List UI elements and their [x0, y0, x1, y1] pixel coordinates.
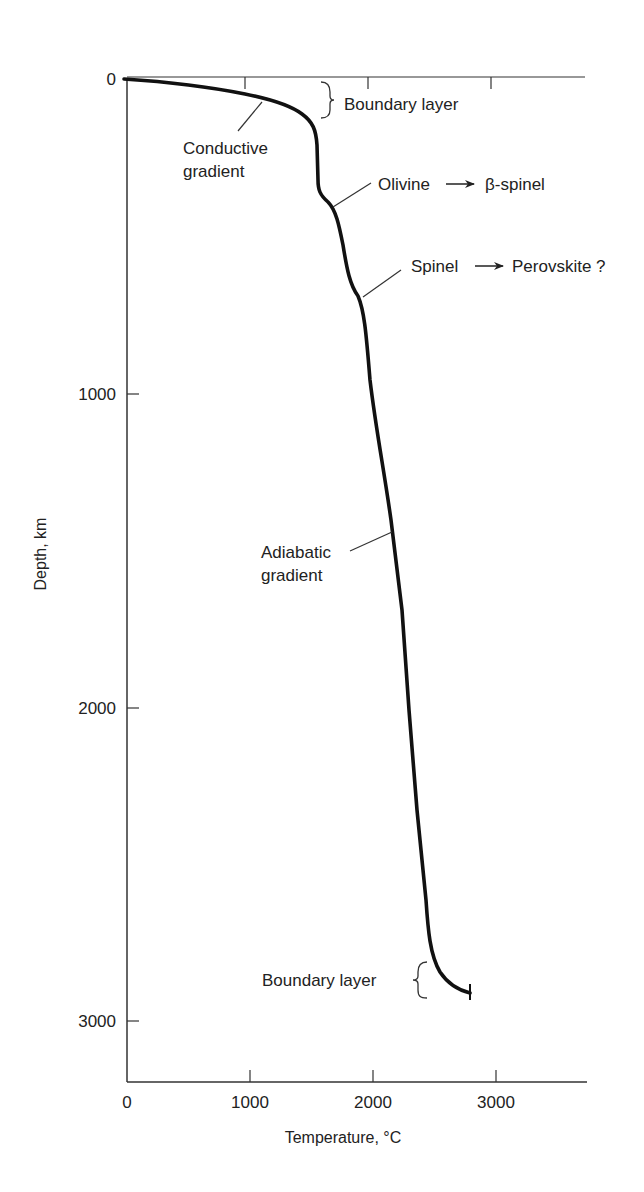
adiabatic-leader: [350, 532, 392, 551]
x-tick-label-3000: 3000: [477, 1093, 515, 1112]
geotherm-curve: [124, 79, 470, 993]
x-tick-label-1000: 1000: [231, 1093, 269, 1112]
spinel-leader: [363, 270, 401, 297]
olivine-label-from: Olivine: [378, 175, 430, 194]
x-tick-label-2000: 2000: [354, 1093, 392, 1112]
x-tick-label-0: 0: [122, 1093, 131, 1112]
conductive-label-line1: Conductive: [183, 139, 268, 158]
boundary-bottom-brace: [413, 962, 427, 998]
spinel-label-to: Perovskite ?: [512, 257, 606, 276]
x-axis-title: Temperature, °C: [285, 1129, 402, 1146]
adiabatic-label-line1: Adiabatic: [261, 543, 331, 562]
conductive-leader: [238, 102, 262, 131]
y-tick-label-1000: 1000: [78, 385, 116, 404]
top-ticks: [245, 77, 491, 89]
y-ticks: [127, 394, 139, 1021]
y-axis-title: Depth, km: [32, 518, 49, 591]
olivine-leader: [333, 183, 371, 207]
adiabatic-label-line2: gradient: [261, 566, 323, 585]
boundary-top-brace: [321, 82, 334, 118]
x-ticks: [250, 1070, 496, 1082]
geotherm-chart: 0 1000 2000 3000 0 1000 2000 3000 Temper…: [0, 0, 644, 1192]
y-tick-label-0: 0: [107, 70, 116, 89]
y-tick-label-2000: 2000: [78, 699, 116, 718]
olivine-label-to: β-spinel: [485, 175, 545, 194]
spinel-label-from: Spinel: [411, 257, 458, 276]
boundary-bottom-label: Boundary layer: [262, 971, 377, 990]
conductive-label-line2: gradient: [183, 162, 245, 181]
y-tick-label-3000: 3000: [78, 1012, 116, 1031]
boundary-top-label: Boundary layer: [344, 95, 459, 114]
